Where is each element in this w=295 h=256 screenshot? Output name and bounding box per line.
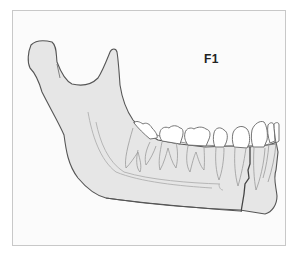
tooth-molar-1 [185, 127, 210, 146]
tooth-canine [251, 121, 267, 147]
fracture-label: F1 [204, 52, 219, 66]
tooth-premolar-1 [232, 126, 249, 148]
tooth-molar-2 [160, 126, 183, 144]
mandible-diagram [0, 0, 295, 256]
tooth-premolar-2 [213, 128, 227, 147]
